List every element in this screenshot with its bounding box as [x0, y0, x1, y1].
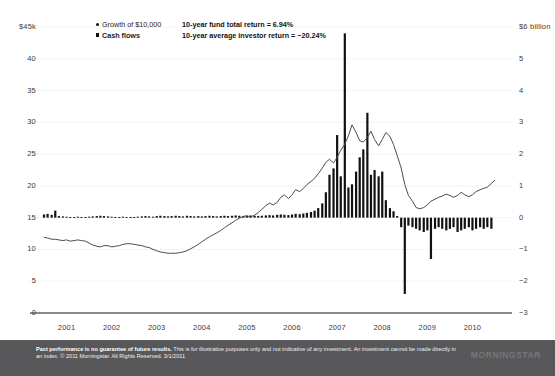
cash-flow-bar: [182, 216, 184, 217]
cash-flow-bar: [122, 217, 124, 218]
footer-bar: Past performance is no guarantee of futu…: [0, 340, 555, 376]
cash-flow-bar: [396, 216, 398, 218]
cash-flow-bar: [468, 218, 470, 228]
cash-flow-bar: [486, 218, 488, 228]
cash-flow-bar: [201, 216, 203, 217]
cash-flow-bar: [73, 217, 75, 218]
cash-flow-bar: [464, 218, 466, 229]
cash-flow-bar: [347, 187, 349, 217]
right-axis-tick-label: −2: [519, 277, 528, 285]
cash-flow-bar: [449, 218, 451, 229]
cash-flow-bar: [118, 217, 120, 218]
chart-legend: Growth of $10,000 10-year fund total ret…: [96, 20, 376, 42]
cash-flow-bar: [159, 216, 161, 218]
cash-flows-marker-icon: [96, 33, 99, 37]
cash-flow-bar: [238, 216, 240, 218]
cash-flow-bar: [370, 175, 372, 218]
stat-fund-total-return: 10-year fund total return = 6.94%: [182, 20, 293, 29]
right-axis-tick-label: 5: [519, 55, 523, 63]
growth-of-10000-line: [44, 125, 495, 253]
cash-flow-bar: [445, 218, 447, 231]
cash-flows-bars: [43, 33, 493, 294]
right-axis-tick-label: 2: [519, 150, 523, 158]
cash-flow-bar: [62, 216, 64, 217]
cash-flow-bar: [197, 216, 199, 218]
cash-flow-bar: [208, 216, 210, 218]
legend-key-growth-of-10000: Growth of $10,000: [96, 20, 182, 29]
cash-flow-bar: [47, 214, 49, 218]
cash-flow-bar: [235, 215, 237, 217]
right-axis-tick-label: $6 billion: [519, 23, 551, 31]
cash-flow-bar: [129, 217, 131, 218]
cash-flow-bar: [212, 216, 214, 218]
cash-flow-bar: [460, 218, 462, 231]
cash-flow-bar: [223, 216, 225, 218]
cash-flow-bar: [80, 217, 82, 218]
x-axis-tick-label: 2004: [182, 324, 222, 332]
x-axis-tick-label: 2005: [227, 324, 267, 332]
cash-flow-bar: [389, 208, 391, 218]
cash-flow-bar: [51, 215, 53, 218]
cash-flow-bar: [430, 218, 432, 259]
cash-flow-bar: [148, 216, 150, 217]
cash-flow-bar: [302, 214, 304, 218]
cash-flow-bar: [189, 216, 191, 218]
footer-text-block: Past performance is no guarantee of futu…: [36, 346, 456, 361]
left-axis-tick-label: 5: [2, 277, 36, 285]
cash-flow-bar: [137, 217, 139, 218]
cash-flow-bar: [475, 218, 477, 229]
cash-flow-bar: [125, 217, 127, 218]
cash-flow-bar: [456, 218, 458, 232]
cash-flow-bar: [84, 217, 86, 218]
cash-flow-bar: [471, 218, 473, 231]
cash-flow-bar: [111, 217, 113, 218]
cash-flow-bar: [400, 218, 402, 228]
growth-marker-icon: [96, 23, 99, 26]
x-axis-tick-label: 2007: [317, 324, 357, 332]
cash-flow-bar: [186, 216, 188, 218]
left-axis-tick-label: $45k: [2, 23, 36, 31]
cash-flow-bar: [69, 217, 71, 218]
chart-screenshot: $45k4035302520151050 $6 billion543210−1−…: [0, 0, 555, 376]
cash-flow-bar: [366, 113, 368, 218]
right-axis-tick-label: 4: [519, 87, 523, 95]
cash-flow-bar: [359, 157, 361, 217]
cash-flow-bar: [385, 200, 387, 217]
x-axis-tick-label: 2008: [362, 324, 402, 332]
cash-flow-bar: [438, 218, 440, 228]
cash-flow-bar: [178, 216, 180, 218]
cash-flow-bar: [193, 216, 195, 217]
legend-label-cash-flows: Cash flows: [102, 31, 140, 40]
cash-flow-bar: [490, 218, 492, 229]
left-axis-tick-label: 25: [2, 150, 36, 158]
cash-flow-bar: [88, 217, 90, 218]
cash-flow-bar: [65, 217, 67, 218]
cash-flow-bar: [317, 208, 319, 218]
cash-flow-bar: [415, 218, 417, 229]
chart-canvas: $45k4035302520151050 $6 billion543210−1−…: [0, 0, 555, 340]
cash-flow-bar: [392, 211, 394, 217]
cash-flow-bar: [441, 218, 443, 229]
cash-flow-bar: [171, 216, 173, 218]
right-axis-tick-label: −3: [519, 309, 528, 317]
right-axis-tick-label: −1: [519, 245, 528, 253]
cash-flow-bar: [133, 217, 135, 218]
cash-flow-bar: [336, 135, 338, 218]
cash-flow-bar: [325, 192, 327, 217]
x-axis-tick-label: 2009: [407, 324, 447, 332]
cash-flow-bar: [280, 214, 282, 217]
growth-of-10000-vs-cash-flows-chart: [0, 0, 555, 340]
cash-flow-bar: [77, 217, 79, 218]
cash-flow-bar: [114, 217, 116, 218]
cash-flow-bar: [156, 216, 158, 218]
left-axis-tick-label: 35: [2, 87, 36, 95]
cash-flow-bar: [332, 168, 334, 217]
cash-flow-bar: [216, 216, 218, 217]
cash-flow-bar: [58, 216, 60, 218]
cash-flow-bar: [328, 175, 330, 218]
cash-flow-bar: [378, 176, 380, 217]
cash-flow-bar: [340, 176, 342, 217]
morningstar-logo: MORNINGSTAR: [471, 350, 541, 360]
cash-flow-bar: [381, 172, 383, 218]
left-axis-tick-label: 10: [2, 245, 36, 253]
